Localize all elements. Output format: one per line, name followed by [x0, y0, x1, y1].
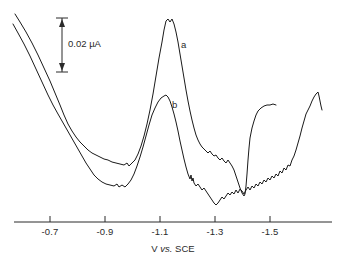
x-tick-label: -1.5 — [250, 226, 290, 237]
curve-b — [13, 24, 322, 205]
x-tick-label: -1.1 — [140, 226, 180, 237]
curve-label-b: b — [172, 99, 177, 110]
x-axis-group — [14, 216, 332, 222]
x-axis-title-suffix: SCE — [175, 243, 195, 254]
x-axis-title-italic: vs. — [160, 243, 172, 254]
scale-bar-label: 0.02 µA — [68, 38, 101, 49]
x-tick-label: -1.3 — [195, 226, 235, 237]
scale-bar-arrow-down-icon — [59, 63, 65, 71]
scale-bar-group — [56, 18, 68, 72]
x-tick-label: -0.9 — [85, 226, 125, 237]
curves-group — [13, 14, 322, 205]
x-tick-label: -0.7 — [30, 226, 70, 237]
curve-label-a: a — [181, 39, 186, 50]
x-axis-title: V vs. SCE — [0, 243, 346, 254]
x-axis-title-prefix: V — [151, 243, 157, 254]
scale-bar-arrow-up-icon — [59, 19, 65, 27]
curve-a — [15, 14, 276, 196]
voltammogram-figure: -0.7 -0.9 -1.1 -1.3 -1.5 V vs. SCE 0.02 … — [0, 0, 346, 266]
